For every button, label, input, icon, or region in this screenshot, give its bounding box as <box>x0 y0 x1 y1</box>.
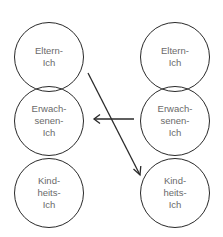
node-label-line: heits- <box>37 187 60 199</box>
node-label-line: Ich <box>169 57 182 69</box>
left-parent-ego-state: Eltern- Ich <box>14 22 84 92</box>
node-label-line: Eltern- <box>161 45 189 57</box>
left-child-ego-state: Kind- heits- Ich <box>14 158 84 228</box>
node-label-line: Ich <box>169 199 182 211</box>
node-label-line: Ich <box>169 127 182 139</box>
right-parent-ego-state: Eltern- Ich <box>140 22 210 92</box>
node-label-line: heits- <box>163 187 186 199</box>
node-label-line: Erwach- <box>158 103 193 115</box>
diagonal-arrow-parent-to-child <box>88 73 141 175</box>
node-label-line: Erwach- <box>32 103 67 115</box>
node-label-line: senen- <box>160 115 189 127</box>
ego-state-diagram: Eltern- Ich Erwach- senen- Ich Kind- hei… <box>0 0 223 237</box>
horizontal-arrow-adult-to-adult <box>94 115 134 124</box>
node-label-line: Kind- <box>38 175 60 187</box>
right-adult-ego-state: Erwach- senen- Ich <box>140 86 210 156</box>
node-label-line: Ich <box>43 127 56 139</box>
node-label-line: Ich <box>43 57 56 69</box>
right-child-ego-state: Kind- heits- Ich <box>140 158 210 228</box>
node-label-line: Kind- <box>164 175 186 187</box>
left-adult-ego-state: Erwach- senen- Ich <box>14 86 84 156</box>
node-label-line: Ich <box>43 199 56 211</box>
node-label-line: senen- <box>34 115 63 127</box>
node-label-line: Eltern- <box>35 45 63 57</box>
